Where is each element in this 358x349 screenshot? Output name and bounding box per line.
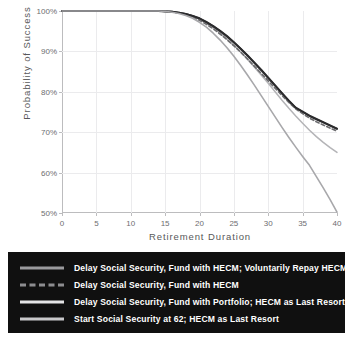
legend-item-label: Delay Social Security, Fund with HECM	[74, 280, 239, 290]
x-axis-tick-mark	[131, 213, 132, 216]
x-axis-tick-mark	[303, 213, 304, 216]
x-axis-tick-label: 40	[333, 219, 342, 228]
chart-screenshot: Probability of Success Retirement Durati…	[0, 0, 358, 349]
x-axis-tick-label: 20	[195, 219, 204, 228]
x-axis-title: Retirement Duration	[62, 231, 338, 242]
x-axis-tick-label: 35	[298, 219, 307, 228]
y-axis-tick-label: 100%	[37, 7, 57, 16]
series-lines	[62, 11, 337, 213]
y-axis-tick-label: 80%	[41, 87, 57, 96]
chart-legend: Delay Social Security, Fund with HECM; V…	[8, 252, 345, 333]
legend-item[interactable]: Delay Social Security, Fund with HECM	[8, 276, 345, 293]
y-axis-title: Probability of Success	[21, 0, 35, 143]
legend-item-label: Start Social Security at 62; HECM as Las…	[74, 314, 279, 324]
y-axis-tick-label: 90%	[41, 47, 57, 56]
legend-item-label: Delay Social Security, Fund with Portfol…	[74, 297, 345, 307]
legend-item[interactable]: Start Social Security at 62; HECM as Las…	[8, 310, 345, 327]
y-axis-tick-label: 50%	[41, 209, 57, 218]
legend-item[interactable]: Delay Social Security, Fund with HECM; V…	[8, 259, 345, 276]
y-axis-tick-label: 70%	[41, 128, 57, 137]
series-line	[62, 11, 337, 129]
x-axis-tick-mark	[96, 213, 97, 216]
legend-line-swatch	[20, 279, 64, 291]
x-axis-tick-mark	[165, 213, 166, 216]
x-axis-tick-mark	[268, 213, 269, 216]
x-axis-tick-mark	[62, 213, 63, 216]
legend-line-swatch	[20, 262, 64, 274]
x-axis-tick-label: 30	[264, 219, 273, 228]
x-axis-tick-label: 10	[126, 219, 135, 228]
x-axis-tick-label: 5	[94, 219, 98, 228]
x-axis-tick-mark	[200, 213, 201, 216]
series-line	[62, 11, 337, 129]
x-axis-tick-label: 0	[60, 219, 64, 228]
line-chart-figure: Probability of Success Retirement Durati…	[0, 0, 358, 250]
legend-line-swatch	[20, 296, 64, 308]
x-axis-tick-label: 15	[161, 219, 170, 228]
series-line	[62, 11, 337, 131]
series-line	[62, 11, 337, 212]
x-axis-tick-mark	[234, 213, 235, 216]
plot-area: 100%90%80%70%60%50% 0510152025303540	[62, 11, 337, 213]
series-line	[62, 11, 337, 152]
legend-item[interactable]: Delay Social Security, Fund with Portfol…	[8, 293, 345, 310]
x-axis-tick-mark	[337, 213, 338, 216]
x-axis-tick-label: 25	[229, 219, 238, 228]
legend-item-label: Delay Social Security, Fund with HECM; V…	[74, 263, 347, 273]
legend-line-swatch	[20, 313, 64, 325]
y-axis-tick-label: 60%	[41, 168, 57, 177]
